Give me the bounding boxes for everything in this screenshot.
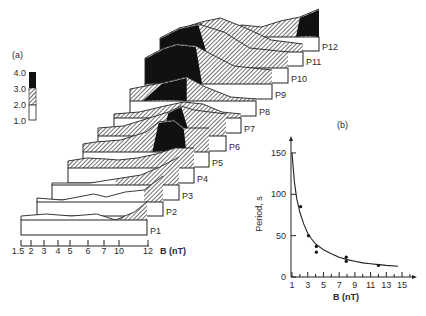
panel-label: P7 (244, 124, 255, 134)
panel-label: P6 (229, 142, 240, 152)
colorbar: 4.0 3.0 2.0 1.0 (13, 68, 36, 126)
x-tick-label: 10 (114, 246, 124, 256)
panel-a-xlabel: B (nT) (160, 246, 186, 256)
panel-label: P8 (259, 107, 270, 117)
panel-label: P3 (182, 191, 193, 201)
data-point (299, 205, 302, 208)
data-point (315, 251, 318, 254)
panel-label: P5 (212, 158, 223, 168)
panel-a-label: (a) (12, 50, 23, 60)
fit-curve (292, 153, 398, 266)
panel-label: P12 (322, 42, 338, 52)
panel-a-x-axis: 1.52345671012 B (nT) (12, 240, 186, 256)
x-tick-label: 9 (352, 280, 357, 290)
colorbar-tick: 4.0 (13, 68, 26, 78)
x-tick-label: 7 (337, 280, 342, 290)
figure: (a) 4.0 3.0 2.0 1.0 P12P11P10P9P8P7P6P5P… (0, 0, 426, 316)
panel-label: P4 (197, 174, 208, 184)
x-tick-label: 1.5 (12, 246, 25, 256)
y-tick-label: 100 (271, 189, 286, 199)
x-tick-label: 5 (321, 280, 326, 290)
stacked-panels: P12P11P10P9P8P7P6P5P4P3P2P1 (21, 9, 338, 236)
x-tick-label: 6 (85, 246, 90, 256)
x-tick-label: 3 (305, 280, 310, 290)
panel-label: P9 (275, 90, 286, 100)
panel-b-xlabel: B (nT) (333, 292, 359, 302)
x-tick-label: 7 (101, 246, 106, 256)
colorbar-tick: 1.0 (13, 116, 26, 126)
x-tick-label: 4 (55, 246, 60, 256)
x-tick-label: 3 (41, 246, 46, 256)
colorbar-tick: 3.0 (13, 84, 26, 94)
data-point (377, 264, 380, 267)
panel-b-ylabel: Period, s (254, 196, 264, 232)
data-point (345, 260, 348, 263)
panel-b: (b) 13579111315050100150 Period, s B (nT… (254, 120, 417, 302)
panel-label: P1 (150, 226, 161, 236)
x-tick-label: 15 (397, 280, 407, 290)
y-tick-label: 50 (276, 231, 286, 241)
data-point (315, 245, 318, 248)
y-tick-label: 0 (281, 272, 286, 282)
colorbar-tick: 2.0 (13, 100, 26, 110)
data-point (307, 234, 310, 237)
x-tick-label: 12 (143, 246, 153, 256)
panel-a: (a) 4.0 3.0 2.0 1.0 P12P11P10P9P8P7P6P5P… (12, 9, 338, 256)
x-tick-label: 1 (289, 280, 294, 290)
panel-label: P2 (166, 207, 177, 217)
data-point (345, 256, 348, 259)
x-tick-label: 11 (366, 280, 375, 290)
x-tick-label: 5 (67, 246, 72, 256)
panel-label: P10 (291, 74, 307, 84)
x-tick-label: 2 (28, 246, 33, 256)
y-tick-label: 150 (271, 148, 286, 158)
panel-b-label: (b) (337, 120, 348, 130)
x-tick-label: 13 (381, 280, 391, 290)
panel-label: P11 (306, 57, 321, 67)
